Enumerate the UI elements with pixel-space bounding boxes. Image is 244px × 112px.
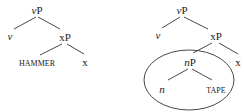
branch [40,44,62,55]
branch [192,69,212,80]
node-x: x [235,56,241,68]
branch [38,17,60,29]
syntax-tree-diagram: vP v xP HAMMER x vP v xP x nP n TAPE [0,0,244,112]
node-hammer: HAMMER [19,59,56,68]
tree-left: vP v xP HAMMER x [8,4,89,68]
branch [184,17,208,29]
branch [168,69,188,80]
branch [219,43,238,54]
node-vP: vP [31,4,42,16]
node-xP: xP [210,30,222,42]
branch [162,17,180,28]
node-v: v [8,30,13,42]
branch [67,44,84,54]
node-tape: TAPE [206,86,225,95]
node-v: v [156,29,161,41]
branch [14,17,36,29]
node-n: n [159,83,165,95]
node-xP: xP [59,31,71,43]
node-x: x [82,56,88,68]
node-nP: nP [184,56,196,68]
tree-right: vP v xP x nP n TAPE [144,4,241,110]
node-vP: vP [176,4,187,16]
